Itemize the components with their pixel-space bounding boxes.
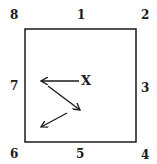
position-label-8: 8 bbox=[10, 9, 18, 21]
position-label-5: 5 bbox=[76, 148, 84, 160]
position-label-3: 3 bbox=[141, 82, 149, 94]
diagram-drawing bbox=[0, 0, 157, 164]
start-marker-x: X bbox=[81, 75, 91, 87]
position-label-1: 1 bbox=[77, 9, 85, 21]
position-label-7: 7 bbox=[10, 80, 18, 92]
position-label-6: 6 bbox=[10, 148, 18, 160]
arrow-3-down-left bbox=[41, 113, 67, 127]
position-diagram: 8 1 2 7 3 6 5 4 X bbox=[0, 0, 157, 164]
position-label-2: 2 bbox=[141, 9, 149, 21]
position-label-4: 4 bbox=[141, 149, 149, 161]
arrow-2-down-right bbox=[48, 86, 80, 110]
